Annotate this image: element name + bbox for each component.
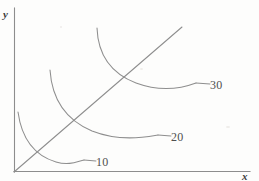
figure-container: y x 10 20 30 bbox=[0, 0, 259, 181]
expansion-path-ray bbox=[14, 27, 182, 172]
curve-label-30: 30 bbox=[210, 79, 222, 91]
ray-group bbox=[14, 27, 182, 172]
x-axis-label: x bbox=[242, 171, 248, 181]
curve-20 bbox=[50, 70, 158, 138]
curve-10-leader bbox=[84, 160, 96, 161]
curve-20-leader bbox=[158, 135, 171, 136]
scan-speck bbox=[60, 26, 62, 28]
scan-speck bbox=[226, 126, 230, 128]
curve-label-20: 20 bbox=[171, 131, 183, 143]
curve-label-10: 10 bbox=[96, 156, 108, 168]
scan-speck bbox=[140, 68, 143, 70]
curve-30-leader bbox=[196, 83, 210, 84]
y-axis-label: y bbox=[3, 9, 8, 20]
